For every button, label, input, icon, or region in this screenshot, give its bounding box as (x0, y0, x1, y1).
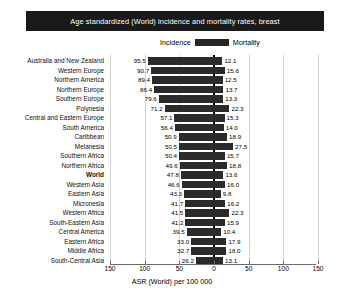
bar-incidence (179, 143, 214, 151)
gridline (318, 55, 319, 264)
bar-incidence (196, 257, 214, 265)
bar-mortality (214, 152, 225, 160)
bar-incidence (184, 190, 214, 198)
bar-mortality (214, 143, 233, 151)
category-axis-labels: Australia and New ZealandWestern EuropeN… (0, 55, 108, 264)
bar-incidence (174, 114, 214, 122)
x-tick-label: 50 (176, 265, 183, 272)
bar-incidence (187, 228, 214, 236)
bar-mortality (214, 133, 227, 141)
x-tick-mark (283, 261, 284, 264)
bar-mortality (214, 219, 225, 227)
x-tick-label: 100 (139, 265, 150, 272)
bar-mortality (214, 257, 223, 265)
bar-mortality (214, 171, 223, 179)
bar-mortality (214, 76, 223, 84)
x-tick-mark (249, 261, 250, 264)
bar-incidence (148, 57, 214, 65)
bar-incidence (179, 133, 214, 141)
x-tick-mark (110, 261, 111, 264)
x-axis-label: ASR (World) per 100 000 (0, 277, 344, 286)
bar-mortality (214, 105, 229, 113)
x-tick-label: 100 (278, 265, 289, 272)
bar-mortality (214, 238, 226, 246)
page-title: Age standardized (World) incidence and m… (70, 17, 279, 26)
bar-incidence (181, 171, 214, 179)
bar-incidence (154, 86, 214, 94)
x-tick-mark (318, 261, 319, 264)
chart-title-bar: Age standardized (World) incidence and m… (26, 11, 324, 31)
x-tick-mark (179, 261, 180, 264)
plot-area: 95.512.190.715.689.412.586.413.779.613.3… (110, 55, 316, 264)
bar-mortality (214, 209, 229, 217)
x-tick-mark (214, 261, 215, 264)
x-tick-label: 150 (104, 265, 115, 272)
bar-mortality (214, 67, 225, 75)
bar-incidence (180, 162, 214, 170)
bar-incidence (179, 152, 214, 160)
bar-mortality (214, 190, 221, 198)
bar-mortality (214, 57, 222, 65)
x-tick-label: 0 (212, 265, 216, 272)
bar-incidence (175, 124, 214, 132)
bar-incidence (152, 76, 214, 84)
bar-incidence (185, 219, 214, 227)
bar-mortality (214, 200, 225, 208)
legend-label-incidence: Incidence (160, 38, 191, 47)
bar-rows: 95.512.190.715.689.412.586.413.779.613.3… (110, 55, 316, 264)
x-axis-ticks: 15010050050100150 (110, 265, 316, 275)
bar-mortality (214, 162, 227, 170)
chart-container: Age standardized (World) incidence and m… (0, 0, 344, 298)
bar-incidence (151, 67, 214, 75)
bar-incidence (185, 200, 214, 208)
bar-mortality (214, 95, 223, 103)
bar-mortality (214, 247, 226, 255)
bar-mortality (214, 181, 225, 189)
x-tick-label: 50 (245, 265, 252, 272)
bar-incidence (191, 238, 214, 246)
bar-incidence (165, 105, 214, 113)
bar-incidence (159, 95, 214, 103)
bar-mortality (214, 228, 221, 236)
x-tick-label: 150 (312, 265, 323, 272)
x-tick-mark (145, 261, 146, 264)
chart-legend: Incidence Mortality (0, 38, 344, 51)
bar-mortality (214, 86, 223, 94)
bar-incidence (191, 247, 214, 255)
bar-mortality (214, 114, 225, 122)
bar-incidence (185, 209, 214, 217)
legend-swatch-icon (195, 39, 229, 46)
bar-mortality (214, 124, 224, 132)
category-label: South-Central Asia (51, 255, 104, 267)
bar-incidence (182, 181, 214, 189)
legend-label-mortality: Mortality (233, 38, 260, 47)
